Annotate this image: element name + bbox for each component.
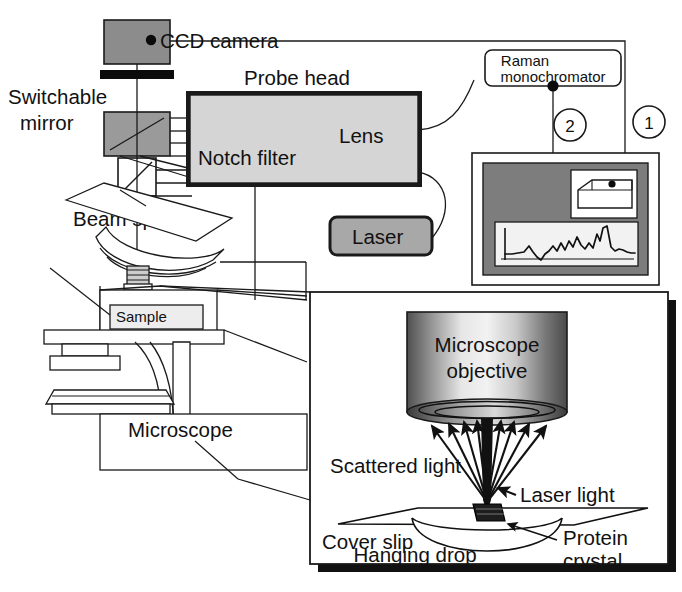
label-probe-head: Probe head — [244, 66, 350, 89]
label-scattered-light: Scattered light — [330, 454, 461, 477]
label-hanging-drop: Hanging drop — [353, 543, 476, 566]
label-ccd-camera: CCD camera — [160, 29, 279, 52]
label-lens: Lens — [339, 124, 383, 147]
label-switchable-mirror-line1: Switchable — [8, 85, 107, 108]
diagram-canvas: CCD camera Switchable mirror Beam splitt… — [0, 0, 682, 592]
label-raman-line2: monochromator — [500, 68, 605, 85]
label-laser-light: Laser light — [520, 483, 615, 506]
callout-1: 1 — [633, 106, 665, 138]
label-objective-line1: Microscope — [435, 333, 540, 356]
computer-tower-icon — [571, 170, 637, 218]
label-protein-line2: crystal — [563, 549, 622, 572]
callout-2: 2 — [554, 109, 586, 141]
label-sample: Sample — [116, 308, 167, 325]
callout-2-text: 2 — [565, 117, 574, 136]
label-protein-line1: Protein — [563, 526, 628, 549]
spectrum-display — [495, 222, 638, 266]
label-laser: Laser — [352, 225, 403, 248]
label-switchable-mirror-line2: mirror — [20, 111, 74, 134]
protein-crystal — [473, 504, 505, 521]
callout-1-text: 1 — [644, 114, 653, 133]
label-raman-line1: Raman — [501, 52, 549, 69]
label-objective-line2: objective — [447, 359, 528, 382]
probe-head — [186, 91, 422, 187]
label-notch-filter: Notch filter — [198, 146, 296, 169]
computer-monitor — [472, 153, 659, 285]
label-microscope: Microscope — [128, 418, 233, 441]
